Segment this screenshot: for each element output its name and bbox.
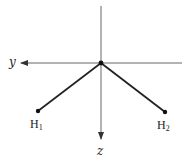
atom-h1-label: H1 — [30, 117, 43, 132]
y-axis-label: y — [8, 55, 16, 69]
atom-h2-subscript: 2 — [166, 124, 170, 133]
central-atom — [99, 61, 104, 66]
bond-h1 — [38, 63, 101, 111]
bond-h2 — [101, 63, 165, 112]
atom-h2-label: H2 — [157, 118, 170, 133]
atom-h1-dot — [36, 109, 40, 113]
atom-h1-symbol: H — [30, 117, 39, 131]
atom-h1-subscript: 1 — [39, 123, 43, 132]
z-axis-label: z — [96, 144, 104, 158]
atom-h2-symbol: H — [157, 118, 166, 132]
atom-h2-dot — [163, 110, 167, 114]
molecule-diagram: y z H1 H2 — [0, 0, 185, 159]
